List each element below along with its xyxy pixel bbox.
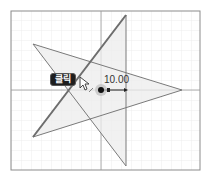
dimension-value[interactable]: 10.00 [104, 75, 129, 85]
click-tooltip: 클릭 [50, 73, 76, 86]
center-point[interactable] [98, 87, 104, 93]
sketch-canvas[interactable]: 클릭 10.00 [0, 0, 205, 175]
sketch-svg[interactable] [0, 0, 205, 175]
dimension-tick [107, 88, 110, 92]
